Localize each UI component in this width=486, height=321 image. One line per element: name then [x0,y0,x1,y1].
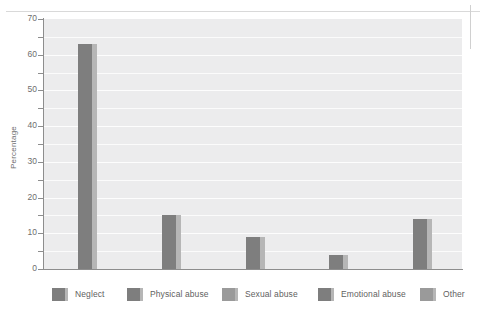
legend-label: Emotional abuse [341,289,406,299]
bar [413,219,432,269]
y-axis-line [43,18,44,270]
bar [78,44,97,269]
y-tick-label: 70 [1,14,37,23]
y-axis-tick-labels: 706050403020100 [0,0,37,321]
legend-item[interactable]: Neglect [52,285,105,303]
bar-face [162,215,176,269]
chart-legend: NeglectPhysical abuseSexual abuseEmotion… [0,285,486,305]
gridline [44,180,462,181]
legend-item[interactable]: Emotional abuse [318,285,406,303]
legend-swatch [420,288,436,301]
bar-face [413,219,427,269]
plot-area [44,19,462,269]
gridline [44,215,462,216]
legend-swatch [318,288,334,301]
y-tick-label: 10 [1,228,37,237]
gridline [44,73,462,74]
gridline [44,233,462,234]
crop-mark-icon [470,5,471,49]
bar [329,255,348,269]
legend-swatch [222,288,238,301]
bar-side [260,237,265,269]
bar-face [246,237,260,269]
bar-side [427,219,432,269]
legend-swatch [52,288,68,301]
gridline [44,144,462,145]
legend-item[interactable]: Sexual abuse [222,285,298,303]
bar-chart-figure: Percentage 706050403020100 NeglectPhysic… [0,0,486,321]
bar [246,237,265,269]
y-tick-label: 30 [1,157,37,166]
legend-item[interactable]: Physical abuse [127,285,209,303]
gridline [44,37,462,38]
y-tick-label: 60 [1,50,37,59]
bar-face [78,44,92,269]
x-axis-line [43,269,463,270]
gridline [44,126,462,127]
page-top-rule [6,11,480,12]
gridline [44,90,462,91]
legend-label: Sexual abuse [245,289,298,299]
bar [162,215,181,269]
bar-side [343,255,348,269]
y-tick-label: 20 [1,193,37,202]
y-tick-label: 40 [1,121,37,130]
legend-label: Other [443,289,465,299]
y-tick-label: 0 [1,264,37,273]
gridline [44,108,462,109]
bar-side [92,44,97,269]
legend-label: Neglect [75,289,105,299]
bar-face [329,255,343,269]
legend-swatch [127,288,143,301]
gridline [44,55,462,56]
legend-item[interactable]: Other [420,285,465,303]
legend-label: Physical abuse [150,289,209,299]
gridline [44,162,462,163]
gridline [44,198,462,199]
y-tick-label: 50 [1,85,37,94]
bar-side [176,215,181,269]
